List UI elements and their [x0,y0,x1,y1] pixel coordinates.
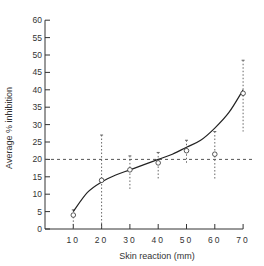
y-tick-label: 5 [37,207,42,217]
data-point [156,161,161,166]
y-tick-label: 60 [33,15,43,25]
y-tick-label: 25 [33,137,43,147]
fit-curve [73,90,243,212]
x-tick-label: 40 [151,235,164,245]
y-axis-label: Average % inhibition [4,87,14,169]
x-tick-label: 70 [236,235,249,245]
y-tick-label: 15 [33,172,43,182]
y-tick-label: 20 [33,154,43,164]
y-tick-label: 45 [33,67,43,77]
data-point [128,168,133,173]
x-tick-label: 30 [123,235,136,245]
y-tick-label: 0 [37,224,42,234]
axes: 05101520253035404550556010203040506070 [33,15,250,245]
x-tick-label: 60 [208,235,221,245]
y-tick-label: 50 [33,50,43,60]
data-points [71,91,245,217]
x-tick-label: 50 [180,235,193,245]
error-bars [72,60,245,229]
data-point [71,213,76,218]
y-tick-label: 55 [33,33,43,43]
data-point [241,91,246,96]
x-tick-label: 10 [67,235,80,245]
data-point [99,178,104,183]
y-tick-label: 10 [33,189,43,199]
chart: 05101520253035404550556010203040506070 S… [0,0,264,266]
data-point [184,148,189,153]
y-tick-label: 30 [33,120,43,130]
chart-svg: 05101520253035404550556010203040506070 S… [0,0,264,266]
x-axis-label: Skin reaction (mm) [119,251,195,261]
x-tick-label: 20 [95,235,108,245]
y-tick-label: 35 [33,102,43,112]
y-tick-label: 40 [33,85,43,95]
data-point [213,152,218,157]
